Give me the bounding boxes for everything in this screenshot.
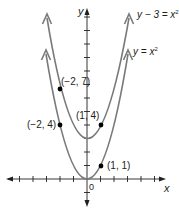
point-neg2-4 (58, 123, 63, 128)
equation-label-base: y = x2 (133, 47, 158, 57)
y-axis (84, 8, 90, 207)
point-label-neg2-4: (−2, 4) (27, 120, 56, 130)
origin-label: 0 (89, 183, 94, 192)
point-1-1 (99, 164, 104, 169)
eq1-text: y = x (133, 46, 154, 57)
y-axis-label: y (78, 6, 84, 17)
parabola-graph (0, 0, 179, 211)
eq2-text: y − 3 = x (137, 9, 175, 20)
point-label-1-4: (1, 4) (76, 111, 99, 121)
x-axis-label: x (164, 183, 170, 194)
equation-label-shifted: y − 3 = x2 (137, 10, 179, 20)
eq1-exponent: 2 (154, 46, 157, 52)
eq2-exponent: 2 (175, 9, 178, 15)
point-1-4 (99, 123, 104, 128)
point-neg2-7 (58, 87, 63, 92)
point-label-1-1: (1, 1) (107, 161, 130, 171)
point-label-neg2-7: (−2, 7) (61, 77, 90, 87)
